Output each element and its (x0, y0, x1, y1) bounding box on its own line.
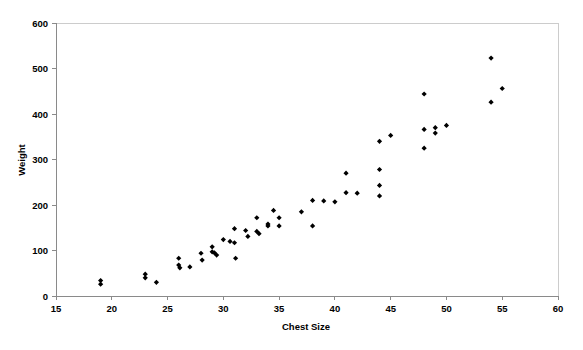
x-tick-label: 60 (553, 303, 564, 314)
y-tick-label: 0 (43, 291, 48, 302)
y-tick-label: 200 (32, 200, 48, 211)
y-tick-label: 100 (32, 245, 48, 256)
y-axis-title: Weight (16, 143, 27, 175)
y-tick-label: 300 (32, 154, 48, 165)
x-tick-label: 55 (497, 303, 508, 314)
x-tick-label: 25 (162, 303, 173, 314)
plot-area-background (56, 23, 558, 296)
chart-canvas: 0100200300400500600 15202530354045505560… (0, 0, 583, 350)
x-tick-label: 40 (330, 303, 341, 314)
x-tick-label: 35 (274, 303, 285, 314)
y-tick-label: 600 (32, 18, 48, 29)
scatter-chart: 0100200300400500600 15202530354045505560… (0, 0, 583, 350)
y-tick-label: 500 (32, 63, 48, 74)
x-tick-label: 15 (51, 303, 62, 314)
x-tick-label: 20 (106, 303, 117, 314)
x-tick-label: 50 (441, 303, 452, 314)
x-axis-title: Chest Size (282, 321, 330, 332)
y-axis-ticks: 0100200300400500600 (32, 18, 56, 302)
x-tick-label: 45 (385, 303, 396, 314)
x-axis-ticks: 15202530354045505560 (51, 296, 564, 314)
x-tick-label: 30 (218, 303, 229, 314)
y-tick-label: 400 (32, 109, 48, 120)
